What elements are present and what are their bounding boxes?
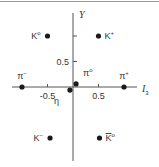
y-tick-label: 0.5	[56, 57, 69, 67]
particle-dot-eta	[67, 87, 72, 92]
x-axis-label-sub: 3	[145, 90, 149, 96]
particle-label-pi+: π+	[119, 70, 129, 81]
particle-label-pi-: π−	[17, 70, 27, 81]
particle-label-K+: K+	[105, 30, 115, 41]
particle-dot-K0	[45, 33, 50, 38]
x-axis-label: I3	[141, 83, 149, 96]
particle-label-pi0: πo	[83, 67, 93, 78]
particle-label-K0: Ko	[31, 30, 41, 41]
particle-dot-K0bar	[97, 135, 102, 140]
particle-label-K-: K−	[34, 132, 44, 143]
particle-label-eta: η	[54, 96, 59, 106]
x-tick-label: 0.5	[92, 91, 105, 101]
meson-octet-diagram: -0.50.50.5 Y I3 KoK+π−πoηπ+K−Ko	[0, 0, 159, 167]
particle-label-K0bar: Ko	[106, 132, 116, 143]
particle-dot-K-	[47, 135, 52, 140]
x-tick-label: -0.5	[40, 91, 56, 101]
particle-dot-pi-	[19, 84, 24, 89]
y-axis-label: Y	[79, 9, 86, 20]
particle-dot-pi0	[73, 81, 78, 86]
particle-dot-pi+	[121, 84, 126, 89]
particle-dot-K+	[96, 33, 101, 38]
